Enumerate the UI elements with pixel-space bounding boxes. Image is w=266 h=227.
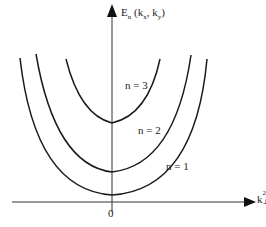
x-axis-arrow-icon [244, 197, 256, 207]
curve-n3 [66, 59, 160, 123]
curve-label-n1: n = 1 [166, 160, 189, 172]
curve-n2 [36, 54, 191, 172]
curve-n1 [20, 58, 207, 195]
origin-label: 0 [108, 207, 114, 219]
curve-label-n2: n = 2 [138, 124, 161, 136]
diagram-canvas [0, 0, 266, 227]
y-axis-arrow-icon [107, 4, 117, 17]
energy-band-diagram: En (kx, ky) k2⊥ 0 n = 3 n = 2 n = 1 [0, 0, 266, 227]
y-axis-label: En (kx, ky) [121, 6, 165, 21]
x-axis-label: k2⊥ [257, 193, 266, 205]
curve-label-n3: n = 3 [125, 79, 148, 91]
